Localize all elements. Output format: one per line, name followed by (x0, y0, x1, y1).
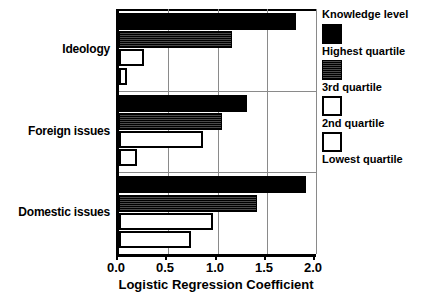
legend-items: Highest quartile3rd quartile2nd quartile… (322, 24, 426, 165)
gridline-x-2 (316, 9, 317, 254)
bar-foreign-issues-3rd-quartile (119, 113, 222, 130)
y-axis-label-domestic-issues: Domestic issues (18, 205, 110, 219)
bar-ideology-2nd-quartile (119, 49, 144, 66)
chart-figure: Ideology Foreign issues Domestic issues … (0, 0, 426, 299)
x-tick-label-2: 2.0 (293, 260, 333, 275)
bar-domestic-issues-lowest-quartile (119, 231, 191, 248)
bar-domestic-issues-highest-quartile (119, 176, 306, 193)
legend-item-3rd-quartile[interactable]: 3rd quartile (322, 60, 426, 93)
legend-label: 3rd quartile (322, 81, 426, 93)
y-axis-label-ideology: Ideology (62, 42, 110, 56)
gridline-x-1.5 (267, 9, 268, 254)
plot-area (116, 9, 316, 257)
y-axis-label-foreign-issues: Foreign issues (28, 124, 110, 138)
legend-label: Highest quartile (322, 45, 426, 57)
plot-inner (119, 9, 316, 254)
x-axis-tick-labels: 0.00.51.01.52.0 (0, 260, 426, 276)
legend-item-highest-quartile[interactable]: Highest quartile (322, 24, 426, 57)
bar-foreign-issues-lowest-quartile (119, 149, 137, 166)
bar-ideology-3rd-quartile (119, 31, 232, 48)
group-separator (119, 172, 316, 173)
legend-label: 2nd quartile (322, 117, 426, 129)
legend-swatch-icon-3rd-quartile (322, 60, 342, 80)
legend-item-lowest-quartile[interactable]: Lowest quartile (322, 132, 426, 165)
x-tick-label-1: 1.0 (195, 260, 235, 275)
legend: Knowledge level Highest quartile3rd quar… (322, 8, 426, 168)
legend-swatch-icon-highest-quartile (322, 24, 342, 44)
legend-swatch-icon-2nd-quartile (322, 96, 342, 116)
x-tick-label-0: 0.0 (96, 260, 136, 275)
bar-ideology-lowest-quartile (119, 68, 127, 85)
bar-ideology-highest-quartile (119, 13, 296, 30)
legend-item-2nd-quartile[interactable]: 2nd quartile (322, 96, 426, 129)
legend-swatch-icon-lowest-quartile (322, 132, 342, 152)
x-tick-label-0.5: 0.5 (145, 260, 185, 275)
bar-foreign-issues-2nd-quartile (119, 131, 203, 148)
x-tick-label-1.5: 1.5 (244, 260, 284, 275)
group-separator (119, 91, 316, 92)
bar-domestic-issues-3rd-quartile (119, 195, 257, 212)
bar-domestic-issues-2nd-quartile (119, 213, 213, 230)
x-axis-title: Logistic Regression Coefficient (116, 277, 316, 292)
legend-label: Lowest quartile (322, 153, 426, 165)
y-axis-category-labels: Ideology Foreign issues Domestic issues (0, 0, 110, 260)
legend-title: Knowledge level (322, 8, 426, 20)
bar-foreign-issues-highest-quartile (119, 95, 247, 112)
